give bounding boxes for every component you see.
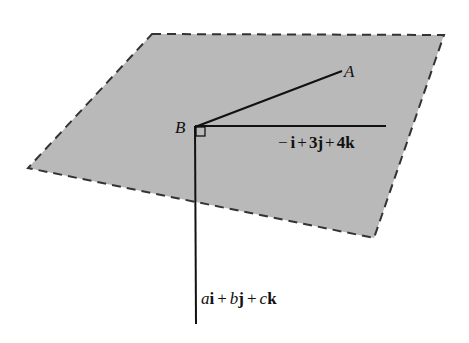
diagram-canvas: B A −i+3j+4k ai+bj+ck	[0, 0, 469, 343]
label-normal-vector: ai+bj+ck	[201, 289, 277, 308]
label-A: A	[343, 62, 355, 81]
normal-vector	[195, 126, 196, 324]
plane	[28, 34, 444, 238]
label-B: B	[175, 118, 186, 137]
